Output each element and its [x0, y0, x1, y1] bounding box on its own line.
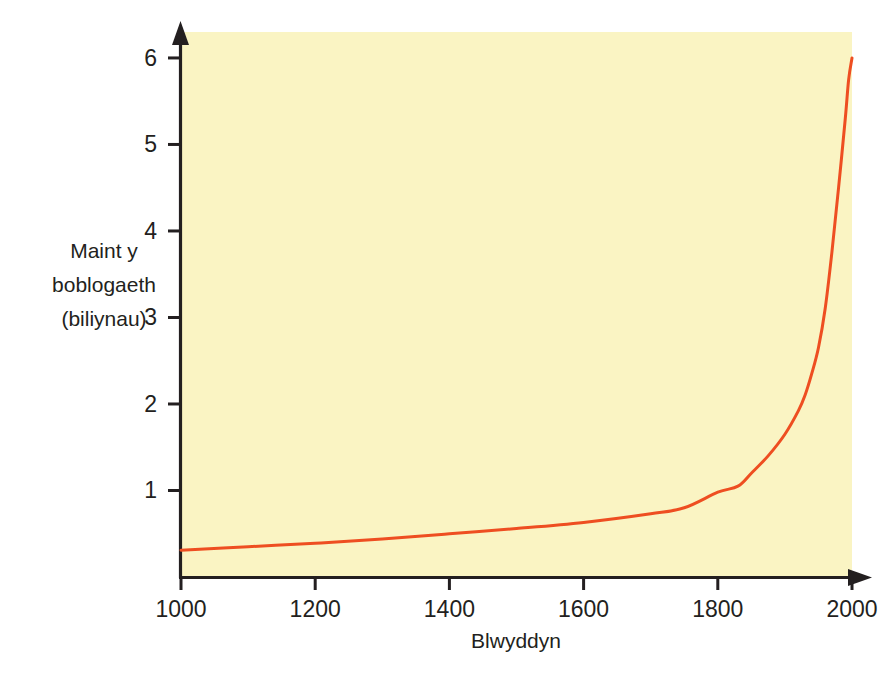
y-axis-title: Maint y boblogaeth (biliynau) [52, 239, 156, 330]
x-tick-label: 1400 [424, 596, 475, 622]
y-tick-label: 5 [144, 131, 157, 157]
x-axis-title: Blwyddyn [471, 629, 561, 652]
population-growth-chart: 123456 100012001400160018002000 Maint y … [0, 0, 892, 687]
y-axis-title-line-2: boblogaeth [52, 273, 156, 296]
y-tick-label: 1 [144, 477, 157, 503]
y-axis-title-line-3: (biliynau) [61, 307, 146, 330]
x-tick-label: 1600 [558, 596, 609, 622]
y-tick-label: 6 [144, 45, 157, 71]
y-axis-title-line-1: Maint y [70, 239, 138, 262]
population-growth-figure: 123456 100012001400160018002000 Maint y … [0, 0, 892, 687]
y-tick-label: 2 [144, 391, 157, 417]
plot-area-background [181, 32, 852, 577]
x-tick-label: 1000 [155, 596, 206, 622]
x-axis-ticks: 100012001400160018002000 [155, 577, 877, 622]
x-tick-label: 1200 [290, 596, 341, 622]
y-tick-label: 4 [144, 218, 157, 244]
x-tick-label: 1800 [692, 596, 743, 622]
x-tick-label: 2000 [826, 596, 877, 622]
